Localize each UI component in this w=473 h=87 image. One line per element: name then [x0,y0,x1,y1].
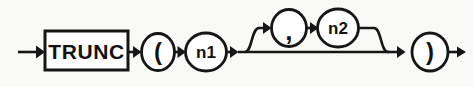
node-comma: , [272,10,307,47]
node-close-paren: ) [412,33,448,71]
node-open-paren-label: ( [154,38,162,65]
node-n2: n2 [318,9,359,47]
railroad-diagram-canvas: TRUNC ( n1 [0,0,473,87]
node-trunc-label: TRUNC [48,40,125,63]
node-comma-label: , [285,16,292,46]
node-trunc: TRUNC [45,31,128,70]
connector-merge-to-close-paren [388,46,406,58]
connector-trunc-to-open-paren [128,46,142,58]
node-close-paren-label: ) [426,38,434,65]
optional-branch-exit-curve [359,28,389,52]
node-open-paren: ( [142,34,175,71]
entry-arrow [18,46,45,59]
railroad-diagram: TRUNC ( n1 [0,0,473,87]
optional-branch-entry-curve [245,22,272,52]
node-n1-label: n1 [196,43,216,62]
node-n1: n1 [186,33,227,71]
exit-arrow [448,47,466,58]
connector-n1-to-branch [227,46,239,58]
node-n2-label: n2 [328,19,348,38]
